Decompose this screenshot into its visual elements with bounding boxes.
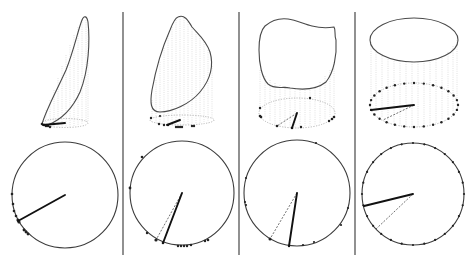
panel-1-projection-lines (46, 20, 88, 127)
panel-1-circle-points (11, 193, 30, 236)
panel-3-circle-view (244, 140, 350, 247)
figure (0, 0, 474, 263)
panel-3-curve (259, 19, 336, 89)
panel-2-dashed-vector (156, 193, 182, 240)
panel-4-3d-curve (369, 18, 459, 128)
panel-2-circle-view (129, 141, 234, 247)
panel-4-resultant-vector (364, 194, 413, 206)
panel-3-3d-curve (259, 19, 336, 129)
panel-2-projection-lines (152, 17, 212, 125)
panel-3-resultant-vector (289, 193, 297, 246)
panel-4-curve (370, 18, 458, 62)
panel-3-projection-lines (260, 62, 334, 128)
panel-3-vector (292, 113, 297, 128)
panel-2-3d-curve (150, 16, 214, 128)
panel-2-resultant-vector (163, 193, 182, 243)
panel-2-circle-points (129, 156, 210, 248)
panel-1-circle-view (11, 142, 118, 248)
panel-4-vector (371, 105, 414, 110)
panel-2-vector (167, 120, 180, 125)
panel-1-resultant-vector (18, 195, 65, 221)
panel-4-circle-view (361, 142, 465, 246)
panel-1-3d-curve (41, 17, 89, 128)
